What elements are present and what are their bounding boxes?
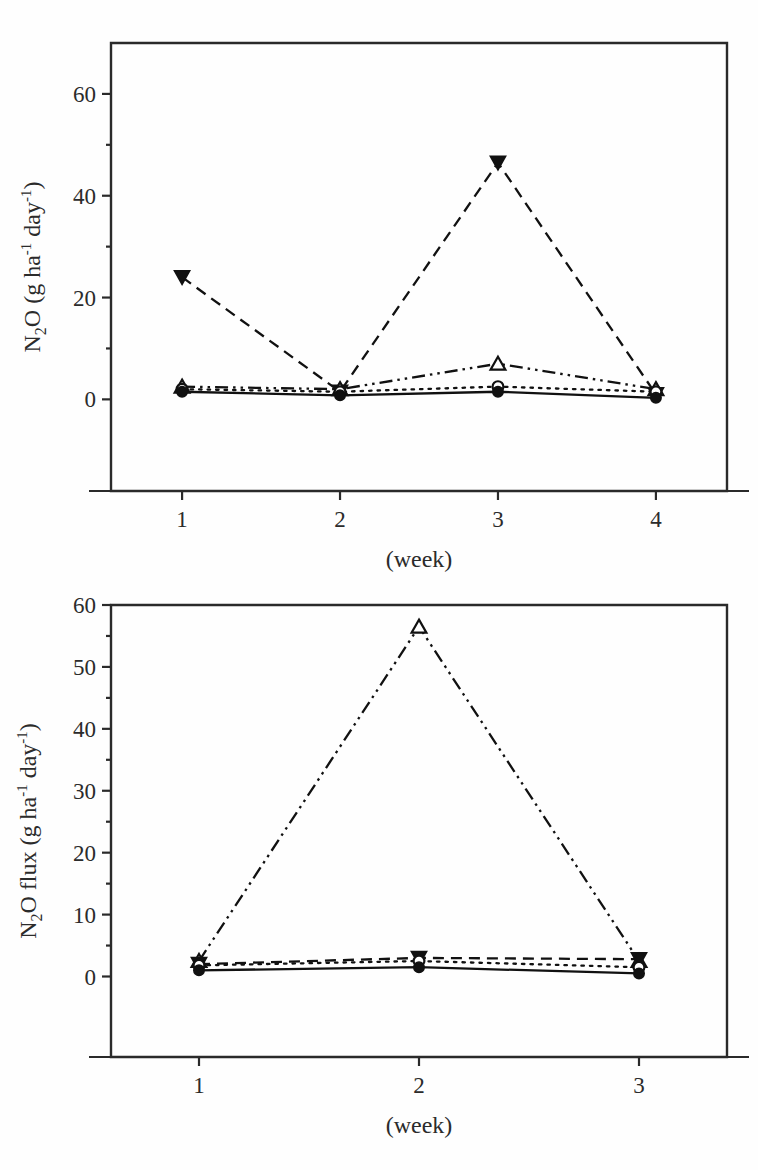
y-axis-title: N2O (g ha-1 day-1) — [18, 182, 49, 353]
series-open-up-triangle-dashdotdot — [192, 620, 647, 967]
x-tick-label: 1 — [176, 507, 188, 532]
series-path-open-up-triangle-dashdotdot — [199, 627, 639, 961]
x-tick-label: 2 — [413, 1073, 425, 1098]
plot-frame — [111, 43, 727, 491]
plot-frame — [111, 605, 727, 1057]
open-up-triangle-dashdotdot-marker — [412, 620, 427, 633]
figure-page: 02040601234(week)N2O (g ha-1 day-1) 0102… — [0, 0, 758, 1170]
y-tick-label: 10 — [73, 903, 96, 928]
chart-panel-bottom: 0102030405060123(week)N2O flux (g ha-1 d… — [0, 575, 758, 1170]
y-tick-label: 20 — [73, 841, 96, 866]
y-tick-label: 20 — [73, 286, 96, 311]
y-tick-label: 60 — [73, 593, 96, 618]
series-path-filled-circle-solid — [182, 392, 656, 398]
series-path-filled-down-triangle-dashed — [182, 163, 656, 395]
y-tick-label: 40 — [73, 717, 96, 742]
filled-circle-solid-marker — [335, 390, 345, 400]
x-tick-label: 1 — [193, 1073, 205, 1098]
filled-circle-solid-marker — [177, 387, 187, 397]
y-tick-label: 30 — [73, 779, 96, 804]
y-tick-label: 0 — [85, 965, 97, 990]
filled-circle-solid-marker — [194, 965, 204, 975]
x-tick-label: 2 — [334, 507, 346, 532]
n2o-flux-line-chart-bottom: 0102030405060123(week)N2O flux (g ha-1 d… — [0, 575, 758, 1170]
filled-circle-solid-marker — [651, 393, 661, 403]
y-tick-label: 50 — [73, 655, 96, 680]
series-path-open-up-triangle-dashdotdot — [182, 364, 656, 389]
open-up-triangle-dashdotdot-marker — [491, 357, 506, 370]
filled-circle-solid-marker — [634, 968, 644, 978]
y-axis-title: N2O flux (g ha-1 day-1) — [14, 723, 45, 939]
filled-down-triangle-dashed-marker — [490, 156, 505, 170]
x-tick-label: 4 — [650, 507, 662, 532]
filled-circle-solid-marker — [493, 387, 503, 397]
x-axis-title: (week) — [386, 546, 453, 572]
x-tick-label: 3 — [633, 1073, 645, 1098]
series-filled-down-triangle-dashed — [174, 156, 663, 401]
x-axis-title: (week) — [386, 1112, 453, 1138]
filled-circle-solid-marker — [414, 962, 424, 972]
y-tick-label: 60 — [73, 82, 96, 107]
x-tick-label: 3 — [492, 507, 504, 532]
y-tick-label: 0 — [85, 387, 97, 412]
n2o-line-chart-top: 02040601234(week)N2O (g ha-1 day-1) — [0, 0, 758, 575]
chart-panel-top: 02040601234(week)N2O (g ha-1 day-1) — [0, 0, 758, 575]
y-tick-label: 40 — [73, 184, 96, 209]
